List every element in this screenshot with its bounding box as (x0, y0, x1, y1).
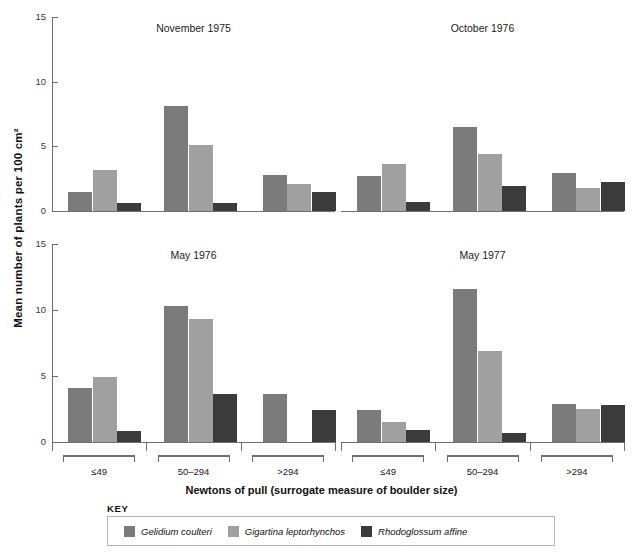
bar (453, 127, 477, 211)
bar (117, 203, 141, 211)
y-tick-label-15: 15 (24, 11, 46, 22)
y-tick-mark (53, 211, 58, 212)
bar (93, 377, 117, 442)
bar (68, 388, 92, 442)
panel-baseline (52, 442, 335, 443)
bar (601, 405, 625, 442)
y-tick-label-10: 10 (24, 304, 46, 315)
bar (189, 319, 213, 442)
x-tick-mark (52, 442, 53, 451)
y-tick-mark (53, 310, 58, 311)
group-label-3: >294 (238, 466, 338, 477)
group-bracket (252, 455, 324, 462)
x-axis-label: Newtons of pull (surrogate measure of bo… (0, 484, 643, 496)
group-label-1: ≤49 (49, 466, 149, 477)
panel-title: November 1975 (52, 22, 335, 34)
legend-gigartina-leptorhynchos: Gigartina leptorhynchos (228, 526, 345, 537)
bar (576, 188, 600, 211)
bar (406, 430, 430, 442)
group-bracket (541, 455, 613, 462)
y-axis-spine (52, 244, 53, 442)
figure-canvas: Mean number of plants per 100 cm² Newton… (0, 0, 643, 556)
bar (213, 394, 237, 442)
panel-title: May 1976 (52, 249, 335, 261)
bar (552, 404, 576, 442)
legend-rhodoglossum-affine: Rhodoglossum affine (361, 526, 467, 537)
bar (478, 351, 502, 442)
legend-swatch-icon (228, 526, 239, 537)
panel-title: May 1977 (341, 249, 624, 261)
bar (357, 410, 381, 442)
panel-title: October 1976 (341, 22, 624, 34)
bar (312, 410, 336, 442)
bar (213, 203, 237, 211)
x-tick-mark (241, 442, 242, 451)
bar (164, 106, 188, 211)
group-bracket (352, 455, 424, 462)
y-tick-mark (53, 17, 58, 18)
y-tick-label-15: 15 (24, 238, 46, 249)
bar (552, 173, 576, 211)
group-label-1: ≤49 (338, 466, 438, 477)
group-bracket (63, 455, 135, 462)
bar (287, 184, 311, 211)
panel-baseline (341, 211, 624, 212)
x-tick-mark (146, 442, 147, 451)
y-tick-label-5: 5 (24, 370, 46, 381)
bar (382, 422, 406, 442)
y-axis-label: Mean number of plants per 100 cm² (12, 68, 24, 388)
y-tick-mark (53, 82, 58, 83)
legend-swatch-icon (124, 526, 135, 537)
key-heading: KEY (107, 503, 128, 514)
bar (263, 394, 287, 442)
group-bracket (447, 455, 519, 462)
x-tick-mark (624, 442, 625, 451)
legend-label: Gelidium coulteri (141, 526, 212, 537)
x-tick-mark (341, 442, 342, 451)
group-label-2: 50–294 (144, 466, 244, 477)
y-tick-mark (53, 376, 58, 377)
bar (453, 289, 477, 442)
bar (502, 433, 526, 442)
bar (93, 170, 117, 211)
y-tick-label-10: 10 (24, 76, 46, 87)
legend-swatch-icon (361, 526, 372, 537)
bar (312, 192, 336, 211)
bar (406, 202, 430, 211)
x-tick-mark (530, 442, 531, 451)
bar (117, 431, 141, 442)
bar (601, 182, 625, 211)
panel-baseline (52, 211, 335, 212)
bar (382, 164, 406, 211)
x-tick-mark (335, 442, 336, 451)
y-tick-mark (53, 244, 58, 245)
bar (478, 154, 502, 211)
legend-gelidium-coulteri: Gelidium coulteri (124, 526, 212, 537)
bar (189, 145, 213, 211)
panel-baseline (341, 442, 624, 443)
y-tick-label-5: 5 (24, 140, 46, 151)
bar (502, 186, 526, 211)
group-label-2: 50–294 (433, 466, 533, 477)
y-tick-mark (53, 442, 58, 443)
bar (68, 192, 92, 211)
group-bracket (158, 455, 230, 462)
y-axis-spine (52, 17, 53, 211)
bar (263, 175, 287, 211)
y-tick-label-0: 0 (24, 205, 46, 216)
bar (357, 176, 381, 211)
group-label-3: >294 (527, 466, 627, 477)
legend-box: Gelidium coulteriGigartina leptorhynchos… (107, 516, 555, 546)
y-tick-mark (53, 146, 58, 147)
y-tick-label-0: 0 (24, 436, 46, 447)
bar (164, 306, 188, 442)
bar (576, 409, 600, 442)
x-tick-mark (435, 442, 436, 451)
legend-label: Rhodoglossum affine (378, 526, 467, 537)
legend-label: Gigartina leptorhynchos (245, 526, 345, 537)
